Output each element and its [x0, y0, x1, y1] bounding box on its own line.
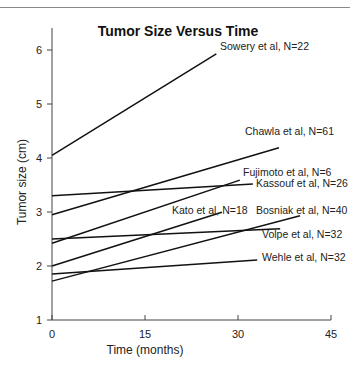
series-line: [52, 54, 216, 156]
y-tick-label: 5: [36, 98, 42, 110]
x-tick-label: 30: [232, 328, 244, 340]
series-label: Volpe et al, N=32: [262, 228, 342, 240]
series-label: Bosniak et al, N=40: [256, 204, 348, 216]
y-tick-label: 6: [36, 44, 42, 56]
series-label: Kassouf et al, N=26: [256, 177, 348, 189]
y-axis-label: Tumor size (cm): [15, 139, 29, 225]
y-tick-label: 3: [36, 206, 42, 218]
y-tick-label: 2: [36, 260, 42, 272]
series-label: Kato et al, N=18: [172, 204, 248, 216]
chart-title: Tumor Size Versus Time: [98, 23, 259, 39]
series-line: [52, 212, 222, 266]
x-tick-label: 0: [49, 328, 55, 340]
line-chart: Tumor Size Versus Time 123456 0153045 Ti…: [0, 0, 362, 376]
y-tick-label: 1: [36, 314, 42, 326]
x-axis-label: Time (months): [107, 343, 184, 357]
series-label: Chawla et al, N=61: [245, 125, 334, 137]
y-tick-label: 4: [36, 152, 42, 164]
x-axis-ticks: 0153045: [49, 315, 337, 340]
y-axis-ticks: 123456: [36, 44, 52, 326]
series-label: Sowery et al, N=22: [220, 40, 309, 52]
series-line: [52, 260, 257, 274]
series-label: Wehle et al, N=32: [262, 251, 346, 263]
x-tick-label: 45: [325, 328, 337, 340]
x-tick-label: 15: [139, 328, 151, 340]
